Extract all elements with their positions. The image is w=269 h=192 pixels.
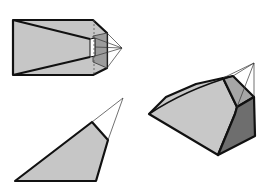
projection-line <box>107 33 122 48</box>
triangle-face <box>15 122 108 181</box>
side-view-triangle <box>15 98 123 181</box>
projection-line <box>108 98 123 140</box>
oblique-view-solid <box>149 63 255 155</box>
projection-line <box>233 63 254 76</box>
front-view-prism <box>13 20 122 75</box>
diagram-canvas <box>0 0 269 192</box>
projection-line <box>107 48 122 68</box>
